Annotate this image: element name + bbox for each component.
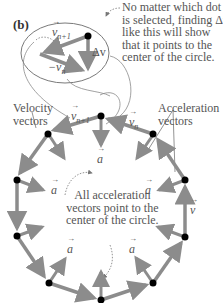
label-v-right: v	[190, 203, 195, 218]
acceleration-vectors-label: Acceleration vectors	[158, 102, 219, 127]
label-a-top: a	[97, 152, 103, 167]
velocity-vectors-label: Velocity vectors	[13, 102, 53, 127]
callout-top: No matter which dot is selected, finding…	[122, 1, 223, 64]
inset-delta-v-label: Δv	[92, 45, 106, 60]
inset-v-next-label: vn+1	[52, 25, 71, 41]
inset-neg-v-label: −vn	[48, 60, 65, 76]
label-a-left: a	[51, 183, 57, 198]
label-v-n: vn	[129, 115, 138, 131]
inset-dot	[85, 33, 92, 40]
center-note: All acceleration vectors point to the ce…	[66, 189, 159, 227]
label-a-bottom-right: a	[129, 242, 135, 257]
panel-label: (b)	[13, 19, 29, 32]
label-v-next: vn+1	[71, 109, 90, 125]
label-a-bottom-left: a	[67, 242, 73, 257]
